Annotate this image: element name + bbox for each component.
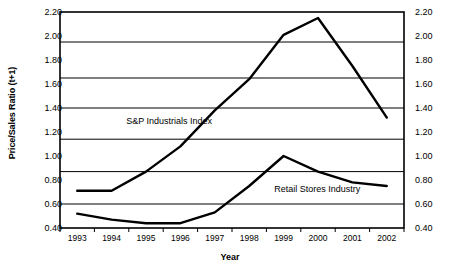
- y-tick-label: 0.80: [415, 175, 433, 185]
- y-tick-label: 1.80: [44, 55, 62, 65]
- y-tick-label: 1.40: [44, 103, 62, 113]
- plot-border: [60, 12, 404, 228]
- y-tick-label: 2.00: [415, 31, 433, 41]
- series-label-sp-industrials: S&P Industrials Index: [126, 116, 212, 126]
- y-tick-label: 0.80: [44, 175, 62, 185]
- x-tick-label: 2002: [367, 233, 407, 243]
- series-line-sp-industrials: [77, 18, 387, 191]
- y-tick-label: 1.20: [415, 127, 433, 137]
- y-tick-label: 0.40: [415, 223, 433, 233]
- y-tick-label: 2.00: [44, 31, 62, 41]
- y-tick-label: 1.00: [44, 151, 62, 161]
- plot-frame: [60, 12, 404, 228]
- y-tick-label: 1.80: [415, 55, 433, 65]
- y-tick-label: 0.40: [44, 223, 62, 233]
- x-axis-title: Year: [60, 252, 400, 262]
- y-tick-label: 1.00: [415, 151, 433, 161]
- y-tick-label: 1.20: [44, 127, 62, 137]
- y-tick-label: 0.60: [44, 199, 62, 209]
- y-tick-label: 1.60: [415, 79, 433, 89]
- plot-area: [0, 0, 458, 269]
- y-tick-label: 1.40: [415, 103, 433, 113]
- chart-container: Price/Sales Ratio (t+1) 2.202.001.801.60…: [0, 0, 458, 269]
- y-axis-title: Price/Sales Ratio (t+1): [7, 43, 17, 183]
- series-label-retail-stores: Retail Stores Industry: [274, 184, 360, 194]
- y-tick-label: 2.20: [415, 7, 433, 17]
- y-tick-label: 2.20: [44, 7, 62, 17]
- y-tick-label: 1.60: [44, 79, 62, 89]
- y-tick-label: 0.60: [415, 199, 433, 209]
